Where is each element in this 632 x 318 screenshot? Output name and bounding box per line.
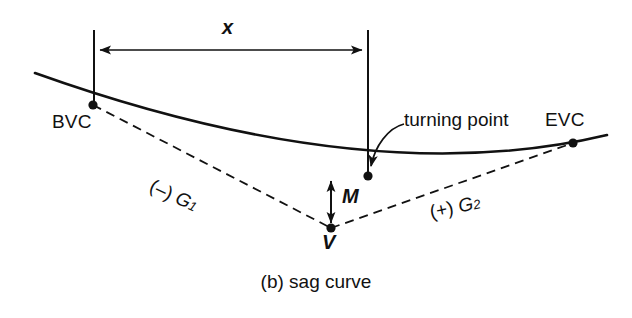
bvc-point-marker [88, 100, 97, 109]
middle-ordinate-label: M [342, 186, 359, 206]
turning-point-label: turning point [404, 110, 509, 129]
tangent-line-g1 [93, 105, 331, 228]
sag-curve-figure: BVC EVC x M V turning point (–) G1 (+) G… [0, 0, 632, 318]
turning-point-leader-arrow [371, 124, 404, 166]
bvc-label: BVC [52, 112, 92, 131]
evc-label: EVC [545, 110, 585, 129]
turning-point-marker [363, 171, 372, 180]
sag-curve-path [35, 73, 607, 153]
vertex-label: V [322, 232, 335, 252]
figure-caption: (b) sag curve [0, 272, 632, 291]
evc-point-marker [568, 138, 577, 147]
distance-x-label: x [222, 17, 233, 37]
